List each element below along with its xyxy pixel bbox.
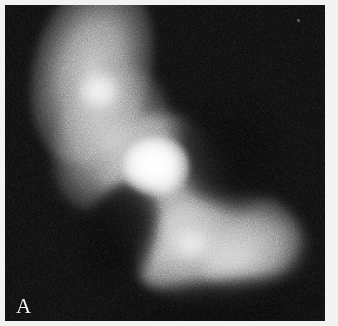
micrograph-image: A <box>5 5 325 321</box>
figure-panel: A <box>0 0 338 326</box>
image-field-background <box>5 5 325 321</box>
panel-label: A <box>16 296 32 317</box>
